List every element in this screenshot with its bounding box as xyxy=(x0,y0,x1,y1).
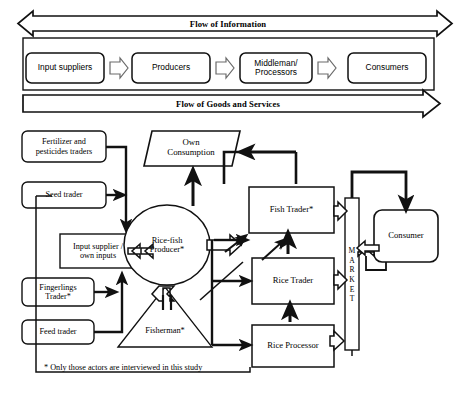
box-rice-processor[interactable] xyxy=(252,325,334,367)
box-feed-trader[interactable] xyxy=(22,320,94,344)
edge-group-traders-inflow xyxy=(212,240,246,345)
diagram-vector-layer xyxy=(0,0,456,399)
shape-rice-fish-producer[interactable] xyxy=(124,205,210,285)
band-flow-of-information xyxy=(18,11,452,36)
edge-market-to-consumer xyxy=(352,172,406,204)
box-input-suppliers[interactable] xyxy=(26,53,104,83)
box-fingerlings-trader[interactable] xyxy=(22,278,94,306)
box-producers[interactable] xyxy=(132,53,210,83)
box-rice-trader[interactable] xyxy=(252,258,334,304)
box-consumer[interactable] xyxy=(374,210,438,262)
box-consumers[interactable] xyxy=(348,53,426,83)
chevron-input-to-producers xyxy=(110,58,128,78)
box-seed-trader[interactable] xyxy=(22,182,106,208)
edge-fertilizer-to-input-supplier xyxy=(106,147,126,226)
box-middleman-processors[interactable] xyxy=(240,53,312,83)
chevron-middleman-to-consumers xyxy=(318,58,336,78)
box-market[interactable] xyxy=(345,198,359,350)
chevron-producers-to-middleman xyxy=(216,58,234,78)
box-fish-trader[interactable] xyxy=(249,187,334,233)
shape-fisherman[interactable] xyxy=(118,287,212,347)
band-flow-of-goods-and-services xyxy=(23,90,440,117)
box-fertilizer-pesticides-traders[interactable] xyxy=(22,131,106,162)
figure-canvas: Flow of Information Flow of Goods and Se… xyxy=(0,0,456,399)
shape-own-consumption[interactable] xyxy=(144,131,240,166)
edge-feed-trader-to-input-supplier xyxy=(94,278,122,332)
